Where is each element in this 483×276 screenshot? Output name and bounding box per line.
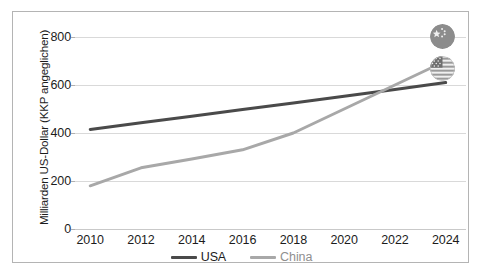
x-tick-label: 2012 bbox=[114, 233, 168, 247]
legend-item-usa: USA bbox=[171, 250, 226, 264]
chart-legend: USAChina bbox=[13, 250, 470, 264]
y-tick-label: 200 bbox=[33, 174, 71, 188]
y-tick-label: 400 bbox=[33, 126, 71, 140]
china-flag-icon bbox=[430, 24, 455, 49]
series-lines bbox=[75, 25, 466, 229]
y-tick-label: 800 bbox=[33, 30, 71, 44]
chart-frame: Milliarden US-Dollar (KKP angeglichen) 0… bbox=[12, 11, 469, 263]
y-tick-label: 600 bbox=[33, 78, 71, 92]
legend-item-china: China bbox=[250, 250, 312, 264]
x-tick-label: 2010 bbox=[63, 233, 117, 247]
x-tick-label: 2024 bbox=[419, 233, 473, 247]
y-axis-ticks: 0200400600800 bbox=[27, 25, 71, 229]
legend-swatch-usa bbox=[171, 256, 197, 259]
x-tick-label: 2022 bbox=[368, 233, 422, 247]
x-axis-ticks: 20102012201420162018202020222024 bbox=[75, 230, 466, 252]
legend-label-china: China bbox=[280, 250, 312, 264]
legend-label-usa: USA bbox=[201, 250, 226, 264]
x-tick-label: 2014 bbox=[165, 233, 219, 247]
legend-swatch-china bbox=[250, 256, 276, 259]
series-line-usa bbox=[90, 83, 445, 130]
plot-area bbox=[75, 25, 466, 229]
x-tick-label: 2020 bbox=[317, 233, 371, 247]
x-tick-label: 2016 bbox=[216, 233, 270, 247]
x-tick-label: 2018 bbox=[266, 233, 320, 247]
usa-flag-icon bbox=[430, 56, 455, 81]
